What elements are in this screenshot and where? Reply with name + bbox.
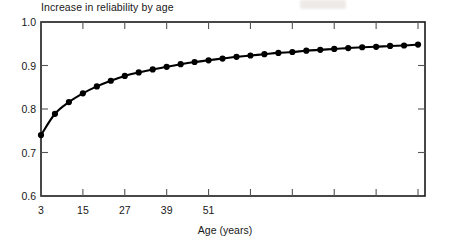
series-path [41,45,418,135]
data-point [261,51,267,57]
x-tick-label: 51 [203,204,215,216]
data-point [415,42,421,48]
data-point [80,90,86,96]
y-tick-label: 0.9 [21,60,36,72]
x-tick-label: 15 [77,204,89,216]
data-point [331,46,337,52]
data-point [401,42,407,48]
data-point [66,99,72,105]
data-point [373,44,379,50]
scan-artifact [300,0,346,9]
data-point [164,64,170,70]
data-point [247,52,253,58]
data-point [317,47,323,53]
plot-area [0,0,450,246]
y-tick-label: 0.6 [21,190,36,202]
data-point [205,57,211,63]
chart-title: Increase in reliability by age [41,1,174,13]
data-point [192,59,198,65]
x-tick-label: 27 [119,204,131,216]
data-point [233,54,239,60]
data-point [303,48,309,54]
y-tick-label: 0.8 [21,103,36,115]
data-point [108,78,114,84]
data-markers [38,42,421,139]
y-tick-label: 1.0 [21,16,36,28]
data-point [136,69,142,75]
data-point [219,55,225,61]
data-point [52,111,58,117]
data-point [289,49,295,55]
data-point [150,66,156,72]
y-tick-label: 0.7 [21,147,36,159]
data-point [178,61,184,67]
data-point [122,73,128,79]
data-point [387,43,393,49]
data-point [345,45,351,51]
reliability-by-age-figure: Increase in reliability by age 0.60.70.8… [0,0,450,246]
data-line [41,45,418,135]
x-tick-label: 3 [38,204,44,216]
data-point [359,44,365,50]
data-point [275,50,281,56]
x-axis-title: Age (years) [0,224,450,236]
x-tick-label: 39 [161,204,173,216]
data-point [38,132,44,138]
data-point [94,83,100,89]
